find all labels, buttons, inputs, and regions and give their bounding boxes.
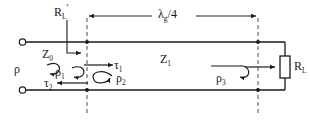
load-resistor: [280, 56, 290, 78]
junction-dot-top-left: [85, 40, 89, 44]
junction-dot-bottom-right: [256, 88, 260, 92]
rho2-loop-arrow: [93, 72, 112, 83]
quarter-wave-transformer-diagram: RL′ λg/4 Z0 Z1 ρ ρ1 ρ2 ρ3 τ1 τ2 RL: [0, 0, 310, 120]
rho1-loop-arrow: [72, 67, 84, 78]
label-z-source: Z0: [42, 48, 53, 63]
label-tau1: τ1: [114, 59, 123, 74]
terminal-bottom: [19, 87, 25, 93]
label-rho: ρ: [14, 63, 20, 78]
resistor-body: [280, 56, 290, 78]
label-quarter-wavelength: λg/4: [158, 8, 177, 23]
label-rho3: ρ3: [216, 72, 226, 87]
label-z-line: Z1: [160, 53, 171, 68]
junction-dot-bottom-left: [85, 88, 89, 92]
input-terminals: [19, 39, 25, 93]
terminal-top: [19, 39, 25, 45]
load-prime-leader: [67, 20, 81, 53]
label-rho1: ρ1: [55, 66, 65, 81]
leader-path: [67, 20, 81, 53]
junction-dot-top-right: [256, 40, 260, 44]
label-tau2: τ2: [44, 77, 53, 92]
label-load-prime: RL′: [54, 3, 69, 21]
label-load-resistor: RL: [294, 60, 307, 75]
